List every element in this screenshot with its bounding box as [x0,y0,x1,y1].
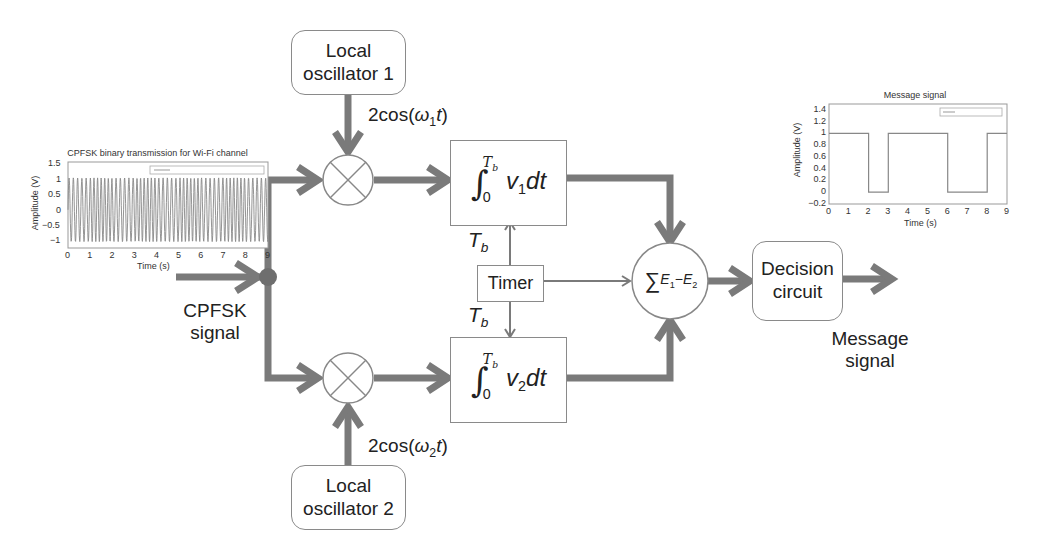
x-tick: 9 [1004,206,1009,216]
y-tick: 0.8 [813,139,826,149]
x-tick: 7 [221,250,226,260]
x-tick: 6 [945,206,950,216]
mixer-1 [323,155,373,205]
y-axis-label: Amplitude (V) [30,176,40,231]
y-tick: 1.2 [813,116,826,126]
x-tick: 0 [65,250,70,260]
x-tick: 0 [826,206,831,216]
integrator-1: ∫0Tbv1dt [450,140,567,226]
integral-expression-1: ∫0Tbv1dt [471,163,546,203]
integral-expression-2: ∫0Tbv2dt [471,360,546,400]
x-tick: 4 [154,250,159,260]
x-tick: 7 [964,206,969,216]
y-tick: 0.4 [813,163,826,173]
y-tick: 0.6 [813,151,826,161]
local-oscillator-2: Localoscillator 2 [291,465,406,530]
integrator-2: ∫0Tbv2dt [450,337,567,423]
y-tick: −0.2 [808,198,826,208]
x-tick: 5 [925,206,930,216]
y-tick: 0 [56,205,61,215]
y-tick: 1 [821,127,826,137]
x-tick: 9 [265,250,270,260]
input-label: CPFSK signal [170,300,260,344]
summer-label: ∑E1−E2 [634,268,708,293]
x-tick: 8 [984,206,989,216]
y-tick: −0.5 [42,220,60,230]
x-tick: 2 [109,250,114,260]
y-tick: −1 [50,235,60,245]
output-label: Message signal [815,328,925,372]
tb-label-top: Tb [468,228,488,256]
x-tick: 3 [132,250,137,260]
timer-box: Timer [477,265,544,302]
cpfsk-chart: CPFSK binary transmission for Wi-Fi chan… [30,148,275,273]
x-axis-label: Time (s) [137,261,170,271]
oscillator-1-signal: 2cos(ω1t) [368,104,448,129]
x-tick: 6 [198,250,203,260]
x-tick: 3 [885,206,890,216]
y-tick: 1 [56,174,61,184]
oscillator-2-signal: 2cos(ω2t) [368,435,448,460]
y-tick: 1.4 [813,104,826,114]
y-tick: 0 [821,186,826,196]
x-tick: 8 [243,250,248,260]
y-tick: 0.2 [813,174,826,184]
decision-circuit: Decisioncircuit [752,241,843,321]
y-axis-label: Amplitude (V) [792,123,802,178]
x-tick: 4 [905,206,910,216]
tb-label-bottom: Tb [468,303,488,331]
message-chart: Message signal 1.41.210.80.60.40.20−0.2 … [780,90,1025,215]
local-oscillator-1: Localoscillator 1 [291,30,406,95]
y-tick: 1.5 [48,158,61,168]
y-tick: 0.5 [48,189,61,199]
x-tick: 5 [176,250,181,260]
lower-branch-line [268,277,316,378]
upper-branch-line [268,180,316,277]
x-tick: 1 [87,250,92,260]
mixer-2 [323,353,373,403]
x-tick: 2 [866,206,871,216]
x-tick: 1 [846,206,851,216]
x-axis-label: Time (s) [904,218,937,228]
